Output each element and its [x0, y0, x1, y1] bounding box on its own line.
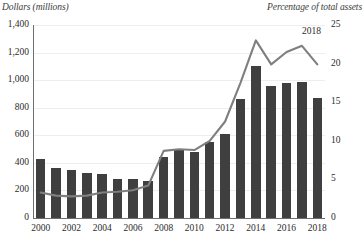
left-axis-title: Dollars (millions) — [2, 2, 69, 12]
y-axis-line — [33, 25, 34, 219]
x-tick-label: 2010 — [179, 223, 209, 233]
x-tick-label: 2002 — [56, 223, 86, 233]
y-tick-label: 800 — [0, 102, 29, 112]
x-tick-label: 2014 — [241, 223, 271, 233]
x-tick-label: 2008 — [149, 223, 179, 233]
y-tick-label: 1,200 — [0, 47, 29, 57]
plot-area — [33, 25, 325, 218]
y2-tick-label: 0 — [331, 212, 336, 222]
y-tick-label: 600 — [0, 129, 29, 139]
y2-tick-label: 20 — [331, 58, 341, 68]
line-path — [41, 40, 318, 196]
y2-tick-label: 5 — [331, 173, 336, 183]
x-tick-label: 2004 — [87, 223, 117, 233]
y-tick-label: 200 — [0, 184, 29, 194]
right-axis-title: Percentage of total assets — [267, 2, 362, 12]
y2-tick-label: 25 — [331, 19, 341, 29]
x-tick-label: 2018 — [302, 223, 332, 233]
x-tick-label: 2016 — [272, 223, 302, 233]
y2-tick-label: 15 — [331, 96, 341, 106]
x-tick-label: 2012 — [210, 223, 240, 233]
y2-tick-label: 10 — [331, 135, 341, 145]
y-tick-label: 0 — [0, 212, 29, 222]
x-tick-label: 2006 — [118, 223, 148, 233]
y-tick-label: 1,000 — [0, 74, 29, 84]
y-tick-label: 400 — [0, 157, 29, 167]
chart-container: Dollars (millions) Percentage of total a… — [0, 0, 363, 249]
x-axis-line — [33, 218, 325, 219]
line-series — [33, 25, 325, 218]
y-tick-label: 1,400 — [0, 19, 29, 29]
series-annotation-2018: 2018 — [302, 26, 321, 36]
x-tick-label: 2000 — [26, 223, 56, 233]
